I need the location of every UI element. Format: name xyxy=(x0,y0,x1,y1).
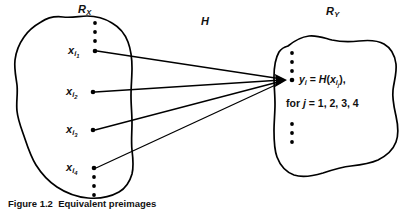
mapping-arrow-2 xyxy=(95,80,282,92)
figure-set-mapping-diagram: RX H RY xi1 xi2 xi3 xi4 yi = H(xij), for… xyxy=(0,0,417,212)
codomain-image-dot xyxy=(290,78,295,83)
codomain-set-label: RY xyxy=(326,6,339,19)
domain-set-label: RX xyxy=(78,4,91,17)
figure-caption-text: Equivalent preimages xyxy=(58,198,156,209)
domain-element-label-3: xi3 xyxy=(66,124,77,139)
domain-dot-1 xyxy=(93,49,98,54)
arrowhead-icon xyxy=(275,74,287,87)
figure-caption: Figure 1.2 Equivalent preimages xyxy=(8,199,156,209)
domain-set-label-sub: X xyxy=(86,8,91,17)
domain-dot-3 xyxy=(91,128,96,133)
domain-dot-2 xyxy=(91,90,96,95)
mapping-arrows-group xyxy=(95,51,282,168)
domain-element-label-4: xi4 xyxy=(66,162,77,177)
domain-dot-4 xyxy=(92,166,97,171)
figure-caption-title: Figure 1.2 xyxy=(8,198,53,209)
domain-element-label-1: xi1 xyxy=(68,45,79,60)
domain-bottom-dots xyxy=(92,175,96,197)
domain-element-label-2: xi2 xyxy=(66,86,77,101)
codomain-set-label-sub: Y xyxy=(334,10,339,19)
mapping-arrow-1 xyxy=(97,51,282,79)
mapping-label-text: H xyxy=(201,15,209,27)
domain-element-dots xyxy=(91,49,98,171)
domain-set-label-base: R xyxy=(78,3,86,15)
mapping-arrow-3 xyxy=(95,81,282,130)
codomain-formula-line1: yi = H(xij), xyxy=(299,74,346,88)
domain-top-dots xyxy=(93,21,97,43)
mapping-arrow-4 xyxy=(96,82,282,168)
codomain-bottom-dots xyxy=(290,122,294,144)
codomain-formula-line2: for j = 1, 2, 3, 4 xyxy=(286,98,359,109)
mapping-label: H xyxy=(201,16,209,27)
codomain-top-dots xyxy=(290,51,294,73)
codomain-set-label-base: R xyxy=(326,5,334,17)
